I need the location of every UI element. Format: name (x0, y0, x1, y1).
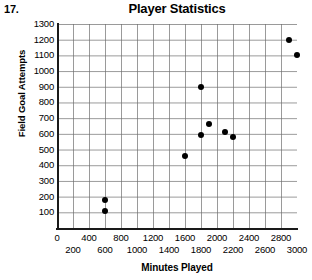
x-tick-label: 2400 (232, 232, 266, 243)
x-tick-label: 1800 (184, 244, 218, 255)
x-tick-label: 2800 (264, 232, 298, 243)
x-tick-label: 2000 (200, 232, 234, 243)
x-tick-label: 2200 (216, 244, 250, 255)
x-tick-label: 200 (56, 244, 90, 255)
x-tick-label: 1200 (136, 232, 170, 243)
x-tick-label: 1000 (120, 244, 154, 255)
x-tick-label: 800 (104, 232, 138, 243)
x-axis-tick-labels: 0200400600800100012001400160018002000220… (0, 0, 312, 280)
x-tick-label: 600 (88, 244, 122, 255)
x-tick-label: 400 (72, 232, 106, 243)
x-tick-label: 2600 (248, 244, 282, 255)
x-tick-label: 3000 (280, 244, 312, 255)
x-tick-label: 1600 (168, 232, 202, 243)
x-tick-label: 0 (40, 232, 74, 243)
x-tick-label: 1400 (152, 244, 186, 255)
